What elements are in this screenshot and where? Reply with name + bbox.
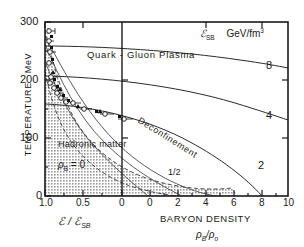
x-tick-label-left-05: 0.5 (76, 198, 90, 208)
y-tick-label-300: 300 (20, 16, 38, 27)
x-axis-title-left-num: ℰ / ℰ (58, 215, 81, 227)
legend-symbol-sub: SB (206, 34, 215, 41)
baryon-density-zero-label: ρB = 0 (58, 160, 85, 173)
contour-label-2: 2 (258, 160, 264, 171)
x-axis-title-right-ratio: ρB/ρo (196, 230, 218, 243)
legend-units: GeV/fm (226, 28, 260, 39)
x-axis-title-right: BARYON DENSITY (160, 214, 251, 224)
contour-label-4: 4 (266, 110, 272, 121)
x-axis-ratio-den: /ρ (206, 229, 215, 240)
x-tick-label-left-0: 0 (119, 198, 125, 208)
qcd-phase-diagram-figure: 300 200 100 0 TEMPERATURE MeV 1.0 0.5 0 … (0, 0, 304, 247)
contour-label-half: 1/2 (168, 168, 181, 177)
contour-label-8: 8 (266, 60, 272, 71)
y-axis-title-text: TEMPERATURE (23, 82, 33, 156)
x-tick-label-right-10: 10 (283, 198, 294, 208)
x-tick-label-right-0: 0 (147, 198, 153, 208)
y-axis-title: TEMPERATURE MeV (24, 45, 33, 165)
legend-units-exponent: 3 (260, 27, 264, 34)
x-tick-label-right-6: 6 (231, 198, 237, 208)
rho-value: = 0 (68, 159, 85, 170)
y-axis-unit: MeV (23, 53, 33, 73)
x-tick-label-right-4: 4 (203, 198, 209, 208)
x-tick-label-left-1: 1.0 (39, 198, 53, 208)
x-axis-title-left-sub: SB (81, 222, 90, 229)
hadronic-matter-label: Hadronic matter (58, 140, 127, 149)
x-axis-ratio-den-sub: o (215, 235, 219, 242)
x-tick-label-right-2: 2 (175, 198, 181, 208)
legend-energy-density: ℰSB GeV/fm3 (200, 28, 264, 42)
qgp-label: Quark - Gluon Plasma (87, 50, 195, 60)
x-tick-label-right-8: 8 (259, 198, 265, 208)
x-axis-title-left: ℰ / ℰSB (58, 216, 91, 229)
